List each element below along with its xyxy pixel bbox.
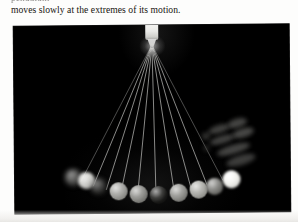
bob-specular-highlight <box>189 181 207 199</box>
bob-3-blurred <box>91 178 107 194</box>
bob-specular-highlight <box>109 183 127 201</box>
bob-specular-highlight <box>91 178 107 194</box>
bob-specular-highlight <box>149 186 167 204</box>
bob-4 <box>109 183 127 201</box>
pivot-support-block <box>145 24 158 40</box>
book-page: pendulum moves slowly at the extremes of… <box>0 0 298 222</box>
bob-7 <box>170 184 188 202</box>
bob-6-dark <box>149 186 167 204</box>
bob-5 <box>130 185 148 203</box>
paper-bottom-shading <box>0 210 298 222</box>
pendulum-string <box>120 45 154 193</box>
bob-specular-highlight <box>170 184 188 202</box>
pendulum-string <box>105 45 153 190</box>
pendulum-string <box>152 44 207 186</box>
pendulum-photograph <box>13 24 291 214</box>
pendulum-string <box>152 44 191 189</box>
pendulum-string <box>92 45 153 187</box>
bob-8 <box>189 181 207 199</box>
pendulum-string <box>80 45 153 182</box>
hand-knuckle <box>202 144 211 153</box>
bob-specular-highlight <box>130 185 148 203</box>
photo-figure-wrapper <box>0 0 298 222</box>
